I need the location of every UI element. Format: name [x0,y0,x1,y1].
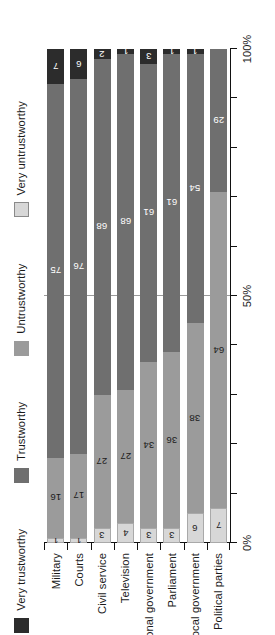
bar-segment[interactable]: 29 [210,49,227,192]
category-label: Local government [187,553,204,627]
bar-value-label: 3 [169,531,174,541]
bar-row[interactable]: 327682 [94,49,111,543]
bar-segment[interactable]: 34 [140,362,157,528]
bar-segment[interactable]: 76 [70,79,87,454]
bar-value-label: 1 [193,47,198,57]
bar-row[interactable]: 336611 [163,49,180,543]
value-tick [230,344,237,345]
chart-rotator: Very untrustworthyUntrustworthyTrustwort… [0,0,275,635]
bar-value-label: 38 [190,413,201,423]
bar-segment[interactable]: 3 [140,528,157,543]
bar-segment[interactable]: 36 [163,352,180,528]
bar-value-label: 4 [123,528,128,538]
bar-segment[interactable]: 3 [94,528,111,543]
legend-item[interactable]: Very untrustworthy [14,101,29,217]
bar-value-label: 68 [120,217,131,227]
category-tick [44,543,45,550]
legend-swatch-icon [14,202,29,217]
legend-label: Very trustworthy [15,529,27,611]
value-tick [230,394,237,395]
category-tick [91,543,92,550]
bar-row[interactable]: 116757 [47,49,64,543]
bar-value-label: 16 [50,493,61,503]
category-tick-slot [187,543,204,550]
bar-row[interactable]: 117766 [70,49,87,543]
category-label: Parliament [163,553,180,627]
bar-segment[interactable]: 6 [70,49,87,79]
bar-value-label: 54 [190,184,201,194]
stacked-bar-chart: Very untrustworthyUntrustworthyTrustwort… [0,0,275,635]
bar-value-label: 3 [146,52,151,62]
bar-segment[interactable]: 1 [163,49,180,54]
value-axis: 0%50%100% [230,49,270,543]
category-label: Civil service [94,553,111,627]
bar-value-label: 3 [146,531,151,541]
bar-segment[interactable]: 61 [140,64,157,362]
category-tick-slot [210,543,227,550]
bar-segment[interactable]: 38 [187,323,204,513]
bar-row[interactable]: 427681 [117,49,134,543]
bar-value-label: 27 [120,452,131,462]
bar-value-label: 61 [143,208,154,218]
bar-segment[interactable]: 3 [140,49,157,64]
legend-swatch-icon [14,468,29,483]
bar-row[interactable]: 76429 [210,49,227,543]
bar-value-label: 75 [50,266,61,276]
value-tick [230,196,237,197]
value-tick-label: 100% [241,35,253,64]
bar-segment[interactable]: 1 [70,538,87,543]
bar-segment[interactable]: 1 [117,49,134,54]
bar-segment[interactable]: 61 [163,54,180,352]
bar-row[interactable]: 638541 [187,49,204,543]
bar-segment[interactable]: 54 [187,54,204,323]
value-tick [230,48,237,49]
bar-segment[interactable]: 3 [163,528,180,543]
category-tick-slot [117,543,134,550]
bar-segment[interactable]: 68 [94,59,111,395]
bar-segment[interactable]: 7 [47,49,64,84]
bar-row[interactable]: 334613 [140,49,157,543]
bar-segment[interactable]: 68 [117,54,134,390]
legend-item[interactable]: Trustworthy [14,402,29,483]
value-tick [230,493,237,494]
bar-segment[interactable]: 6 [187,513,204,543]
category-tick [137,543,138,550]
value-tick [230,246,237,247]
bar-value-label: 64 [213,346,224,356]
value-tick [230,295,237,296]
legend-item[interactable]: Untrustworthy [14,263,29,355]
bar-segment[interactable]: 64 [210,192,227,508]
bar-value-label: 17 [73,491,84,501]
bar-value-label: 76 [73,262,84,272]
bar-segment[interactable]: 75 [47,84,64,458]
category-tick-slot [140,543,157,550]
legend-swatch-icon [14,341,29,356]
legend-item[interactable]: Very trustworthy [14,529,29,633]
bar-segment[interactable]: 17 [70,454,87,538]
category-ticks [44,543,230,550]
legend-label: Untrustworthy [15,263,27,333]
value-tick-label: 50% [241,285,253,307]
legend-label: Trustworthy [15,402,27,461]
value-tick [230,542,237,543]
bar-value-label: 3 [99,531,104,541]
bar-segment[interactable]: 27 [117,390,134,523]
bar-segment[interactable]: 27 [94,395,111,528]
bar-segment[interactable]: 4 [117,523,134,543]
bar-segment[interactable]: 1 [187,49,204,54]
bar-segment[interactable]: 7 [210,508,227,543]
bar-segment[interactable]: 2 [94,49,111,59]
bar-value-label: 1 [123,47,128,57]
category-tick [160,543,161,550]
legend-label: Very untrustworthy [15,101,27,195]
category-tick-slot [163,543,180,550]
bar-value-label: 2 [99,49,104,59]
bar-segment[interactable]: 1 [47,538,64,543]
bar-value-label: 7 [216,521,221,531]
bar-value-label: 68 [97,222,108,232]
category-labels: MilitaryCourtsCivil serviceTelevisionNat… [44,553,230,627]
bar-value-label: 6 [76,59,81,69]
value-tick [230,147,237,148]
bar-series-container: 1167571177663276824276813346133366116385… [44,49,230,543]
bar-segment[interactable]: 16 [47,458,64,538]
